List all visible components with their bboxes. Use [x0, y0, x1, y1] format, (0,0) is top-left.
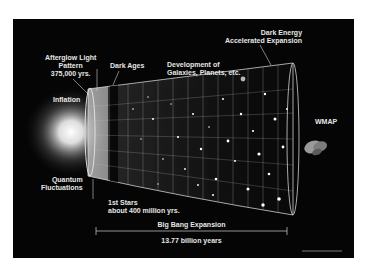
dark-ages-label: Dark Ages — [110, 62, 144, 70]
inflation-label: Inflation — [53, 96, 80, 104]
development-line-2: Galaxies, Planets, etc. — [167, 69, 241, 77]
afterglow-line-3: 375,000 yrs. — [45, 70, 96, 78]
first-stars-line-2: about 400 million yrs. — [108, 207, 180, 215]
image-credit — [302, 250, 342, 252]
development-line-1: Development of — [167, 61, 241, 69]
afterglow-line-1: Afterglow Light — [45, 54, 96, 62]
universe-timeline-diagram: Afterglow Light Pattern 375,000 yrs. Dar… — [13, 19, 354, 258]
quantum-line-2: Fluctuations — [41, 184, 83, 192]
quantum-fluctuations-label: Quantum Fluctuations — [41, 176, 83, 192]
development-label: Development of Galaxies, Planets, etc. — [167, 61, 241, 77]
afterglow-label: Afterglow Light Pattern 375,000 yrs. — [45, 54, 96, 78]
big-bang-expansion-label: Big Bang Expansion — [96, 221, 287, 229]
quantum-line-1: Quantum — [41, 176, 83, 184]
first-stars-line-1: 1st Stars — [108, 199, 180, 207]
wmap-satellite-icon — [302, 137, 329, 159]
age-label: 13.77 billion years — [96, 237, 287, 245]
wmap-label: WMAP — [315, 118, 337, 126]
afterglow-line-2: Pattern — [45, 62, 96, 70]
dark-energy-label: Dark Energy Accelerated Expansion — [225, 29, 302, 45]
first-stars-label: 1st Stars about 400 million yrs. — [108, 199, 180, 215]
dark-energy-line-1: Dark Energy — [225, 29, 302, 37]
dark-energy-line-2: Accelerated Expansion — [225, 37, 302, 45]
